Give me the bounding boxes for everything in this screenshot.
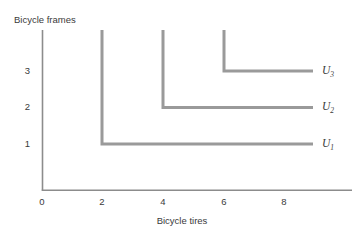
curve-label-u2-sub: 2 bbox=[330, 106, 334, 115]
curve-label-u1: U1 bbox=[322, 138, 334, 152]
plot-area bbox=[0, 0, 364, 243]
indifference-curve-figure: Bicycle frames Bicycle tires 0 2 4 6 8 3… bbox=[0, 0, 364, 243]
y-tick-label-3: 3 bbox=[16, 66, 30, 76]
x-tick-label-6: 6 bbox=[214, 197, 234, 207]
curve-label-u3: U3 bbox=[322, 65, 334, 79]
x-tick-label-0: 0 bbox=[32, 197, 52, 207]
curve-label-u3-sub: 3 bbox=[330, 70, 334, 79]
x-axis-title: Bicycle tires bbox=[0, 216, 364, 226]
x-tick-label-8: 8 bbox=[274, 197, 294, 207]
x-tick-label-4: 4 bbox=[153, 197, 173, 207]
y-tick-label-2: 2 bbox=[16, 102, 30, 112]
indifference-curve-u2 bbox=[163, 30, 313, 108]
indifference-curve-u3 bbox=[224, 30, 313, 71]
y-axis-title: Bicycle frames bbox=[14, 15, 76, 25]
curve-label-u2: U2 bbox=[322, 101, 334, 115]
x-tick-label-2: 2 bbox=[92, 197, 112, 207]
indifference-curve-u1 bbox=[102, 30, 313, 144]
y-tick-label-1: 1 bbox=[16, 139, 30, 149]
curve-label-u1-sub: 1 bbox=[330, 143, 334, 152]
